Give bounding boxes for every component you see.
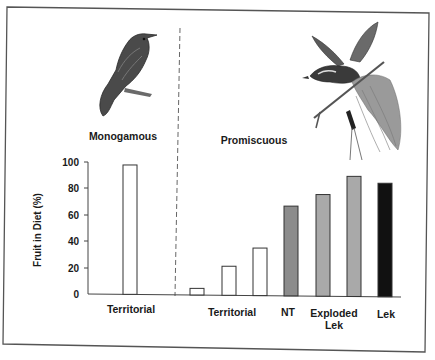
- bar: [190, 288, 204, 295]
- y-tick-label: 80: [68, 183, 80, 194]
- y-tick-label: 60: [68, 210, 80, 221]
- group-label-monogamous: Monogamous: [89, 130, 157, 142]
- x-label-exploded-lek-line1: Exploded: [310, 307, 357, 319]
- x-label-monogamous-territorial: Territorial: [107, 303, 155, 315]
- x-label-exploded-lek-line2: Lek: [325, 319, 343, 331]
- x-label-nt: NT: [281, 306, 296, 318]
- y-tick-label: 40: [68, 236, 80, 247]
- bar: [316, 195, 330, 297]
- bar: [378, 183, 392, 297]
- bar: [284, 206, 298, 296]
- bar: [253, 248, 267, 296]
- x-label-promiscuous-territorial: Territorial: [208, 306, 256, 318]
- bar: [222, 266, 236, 295]
- bar: [347, 176, 361, 296]
- group-label-promiscuous: Promiscuous: [221, 134, 288, 146]
- figure-frame: [3, 7, 429, 352]
- y-tick-label: 20: [68, 263, 80, 274]
- y-axis-title: Fruit in Diet (%): [32, 193, 43, 267]
- y-tick-label: 100: [62, 157, 79, 168]
- y-tick-label: 0: [73, 289, 79, 300]
- bar: [123, 165, 137, 294]
- figure: Monogamous Promiscuous Fruit in Diet (%)…: [0, 0, 435, 360]
- x-label-lek: Lek: [377, 308, 395, 320]
